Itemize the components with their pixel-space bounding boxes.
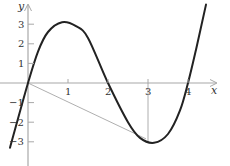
secant-line (28, 83, 146, 139)
x-tick-label: 3 (145, 86, 151, 97)
curve-layer (10, 5, 206, 148)
y-tick-label: −2 (9, 117, 24, 128)
y-axis-label: y (17, 0, 25, 13)
y-tick-label: 3 (18, 19, 24, 30)
guide-lines (28, 83, 148, 142)
x-axis-label: x (211, 84, 218, 97)
y-tick-label: −1 (9, 97, 24, 108)
y-tick-label: 1 (18, 58, 24, 69)
cubic-function-plot: 1234−3−2−1123 x y (0, 0, 230, 166)
x-tick-label: 2 (105, 86, 111, 97)
y-tick-label: −3 (9, 136, 24, 147)
y-tick-label: 2 (18, 38, 24, 49)
x-tick-label: 4 (185, 86, 191, 97)
x-tick-label: 1 (65, 86, 71, 97)
chart-container: 1234−3−2−1123 x y (0, 0, 230, 166)
curve (10, 5, 206, 148)
